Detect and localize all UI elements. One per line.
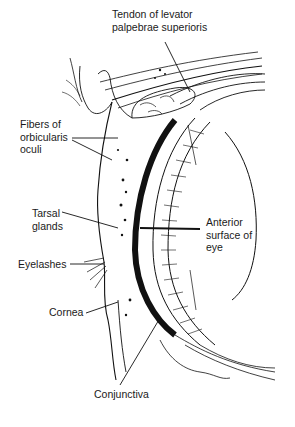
label-eyelashes: Eyelashes [18, 258, 66, 271]
label-fibers-of-orbicularis-oculi: Fibers of orbicularis oculi [20, 118, 68, 156]
label-anterior-surface-of-eye: Anterior surface of eye [206, 216, 252, 254]
label-cornea: Cornea [49, 306, 83, 319]
eyelid-anatomy-diagram: Tendon of levator palpebrae superioris F… [0, 0, 295, 427]
label-tendon-of-levator-palpebrae-superioris: Tendon of levator palpebrae superioris [112, 8, 207, 33]
label-tarsal-glands: Tarsal glands [32, 207, 63, 232]
label-conjunctiva: Conjunctiva [94, 388, 149, 401]
